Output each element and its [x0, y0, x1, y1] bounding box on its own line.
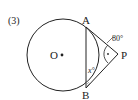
label-angle-x: x°: [87, 66, 96, 75]
label-b: B: [82, 89, 89, 100]
label-p: P: [121, 49, 127, 61]
problem-number: (3): [8, 15, 20, 27]
angle-p-dot: [107, 53, 109, 55]
label-o: O: [50, 49, 58, 61]
geometry-diagram: (3) A B O P 80° x°: [0, 0, 138, 100]
label-angle-p: 80°: [112, 34, 123, 43]
label-a: A: [82, 14, 90, 26]
center-dot: [61, 54, 64, 57]
